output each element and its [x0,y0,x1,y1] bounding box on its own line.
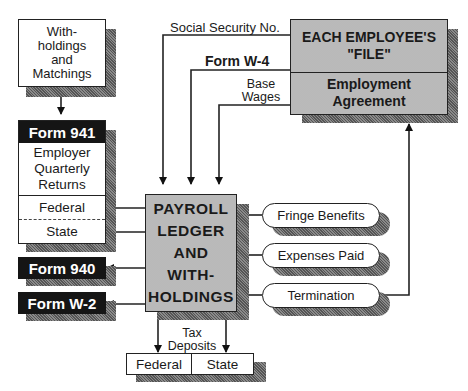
base-wages-label: Base Wages [233,78,289,104]
w4-label: Form W-4 [205,55,269,68]
employment-agreement-line: Employment [327,76,411,93]
withholdings-line: holdings [38,39,86,53]
employment-agreement: Employment Agreement [291,73,447,113]
payroll-line: LEDGER [157,220,225,242]
tax-deposits-label: Tax Deposits [164,327,220,353]
form941-state: State [19,220,105,243]
fringe-benefits-pill: Fringe Benefits [262,203,380,228]
form941-title: Form 941 [19,121,105,143]
employee-file-title: EACH EMPLOYEE'S "FILE" [291,20,447,73]
tax-deposit-state: State [192,354,253,374]
employee-file-title-line: "FILE" [347,46,391,63]
withholdings-line: and [51,53,73,67]
form941-box: Form 941 Employer Quarterly Returns Fede… [18,120,106,244]
base-wages-line: Wages [233,91,289,104]
payroll-ledger-box: PAYROLL LEDGER AND WITH- HOLDINGS [145,194,237,312]
form941-desc-line: Returns [38,177,85,193]
payroll-line: AND [173,242,208,264]
form941-desc-line: Employer [33,145,90,161]
termination-pill: Termination [262,283,380,308]
expenses-paid-pill: Expenses Paid [262,243,380,268]
ssn-label: Social Security No. [170,21,280,34]
employment-agreement-line: Agreement [332,93,405,110]
withholdings-line: Matchings [32,67,91,81]
tax-deposits-line: Deposits [164,340,220,353]
form941-description: Employer Quarterly Returns [19,143,105,196]
formW2-box: Form W-2 [18,292,106,314]
employee-file-box: EACH EMPLOYEE'S "FILE" Employment Agreem… [290,19,448,115]
payroll-line: HOLDINGS [148,286,234,308]
form940-box: Form 940 [18,257,106,279]
tax-deposit-boxes: Federal State [126,353,254,375]
withholdings-matchings-box: With- holdings and Matchings [18,19,106,87]
tax-deposit-federal: Federal [127,354,192,374]
employee-file-title-line: EACH EMPLOYEE'S [302,29,436,46]
payroll-line: PAYROLL [154,198,229,220]
withholdings-line: With- [47,25,77,39]
form941-federal: Federal [19,196,105,220]
payroll-line: WITH- [167,264,214,286]
form941-desc-line: Quarterly [34,161,90,177]
